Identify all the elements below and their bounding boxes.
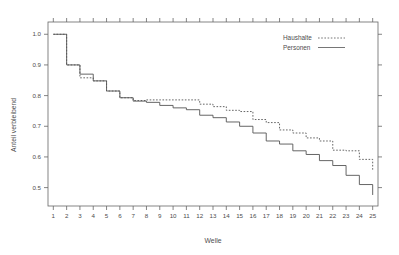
x-tick-label: 22 [329,212,336,219]
x-tick-label: 7 [131,212,135,219]
x-tick-label: 23 [343,212,350,219]
x-tick-label: 12 [196,212,203,219]
x-tick-label: 16 [249,212,256,219]
x-tick-label: 25 [369,212,376,219]
x-tick-label: 2 [65,212,69,219]
x-axis-title: Welle [205,237,222,244]
y-tick-label: 0.9 [32,61,41,68]
x-tick-label: 21 [316,212,323,219]
x-tick-label: 11 [183,212,190,219]
x-tick-label: 3 [78,212,82,219]
x-tick-label: 13 [210,212,217,219]
x-tick-label: 17 [263,212,270,219]
x-tick-label: 4 [92,212,96,219]
x-tick-label: 14 [223,212,230,219]
y-axis-title: Anteil verbleibend [10,98,17,152]
legend-label-personen: Personen [283,44,311,51]
y-tick-label: 0.6 [32,153,41,160]
chart-container: 0.50.60.70.80.91.0 123456789101112131415… [0,0,399,255]
x-tick-label: 8 [145,212,149,219]
step-chart: 0.50.60.70.80.91.0 123456789101112131415… [0,0,399,255]
x-tick-label: 20 [303,212,310,219]
y-tick-label: 0.8 [32,92,41,99]
y-tick-label: 1.0 [32,30,41,37]
x-tick-label: 5 [105,212,109,219]
x-tick-label: 19 [289,212,296,219]
x-tick-label: 1 [52,212,56,219]
x-tick-label: 18 [276,212,283,219]
x-tick-label: 10 [170,212,177,219]
y-tick-label: 0.5 [32,184,41,191]
x-tick-label: 9 [158,212,162,219]
x-tick-label: 24 [356,212,363,219]
legend-label-haushalte: Haushalte [283,34,312,41]
x-tick-label: 15 [236,212,243,219]
x-tick-label: 6 [118,212,122,219]
y-tick-label: 0.7 [32,122,41,129]
